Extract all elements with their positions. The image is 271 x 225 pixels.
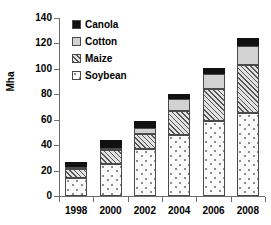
y-axis-tick (54, 69, 59, 70)
bar-segment-canola-1998 (65, 162, 87, 168)
x-axis-tick (128, 197, 129, 202)
y-axis-tick-label: 60 (18, 115, 52, 125)
bar-segment-cotton-2004 (168, 99, 190, 110)
bar-segment-soybean-2006 (203, 121, 225, 196)
legend-label: Maize (85, 54, 112, 64)
chart-legend: CanolaCottonMaizeSoybean (72, 16, 167, 84)
y-axis-tick (54, 18, 59, 19)
legend-label: Soybean (85, 71, 127, 81)
y-axis-title: Mha (5, 76, 16, 92)
legend-swatch-maize-icon (72, 54, 81, 63)
bar-segment-maize-2000 (100, 150, 122, 164)
x-axis-tick (162, 197, 163, 202)
legend-swatch-cotton-icon (72, 37, 81, 46)
x-axis-tick (265, 197, 266, 202)
bar-segment-canola-2004 (168, 94, 190, 99)
legend-item-maize: Maize (72, 50, 167, 67)
x-axis-tick (93, 197, 94, 202)
bar-2004 (168, 18, 190, 196)
bar-segment-soybean-2000 (100, 164, 122, 196)
bar-segment-cotton-2006 (203, 74, 225, 89)
y-axis-tick-label: 80 (18, 89, 52, 99)
y-axis-tick-label: 40 (18, 140, 52, 150)
bar-segment-canola-2008 (237, 38, 259, 46)
x-axis-tick (196, 197, 197, 202)
bar-segment-cotton-2002 (134, 128, 156, 134)
y-axis-tick-label: 100 (18, 64, 52, 74)
y-axis-tick (54, 145, 59, 146)
x-axis-tick-label: 2008 (227, 206, 269, 216)
legend-item-cotton: Cotton (72, 33, 167, 50)
bar-segment-cotton-2008 (237, 46, 259, 65)
legend-swatch-canola-icon (72, 20, 81, 29)
y-axis-tick-label: 120 (18, 38, 52, 48)
legend-item-canola: Canola (72, 16, 167, 33)
x-axis-tick (231, 197, 232, 202)
y-axis-tick-label: 20 (18, 166, 52, 176)
bar-segment-canola-2000 (100, 140, 122, 148)
bar-segment-soybean-2008 (237, 113, 259, 196)
bar-segment-maize-2004 (168, 111, 190, 135)
y-axis-tick (54, 171, 59, 172)
bar-segment-maize-1998 (65, 169, 87, 178)
legend-label: Cotton (85, 37, 117, 47)
bar-segment-maize-2006 (203, 89, 225, 121)
bar-segment-canola-2002 (134, 121, 156, 128)
bar-segment-maize-2008 (237, 65, 259, 113)
bar-segment-soybean-2002 (134, 149, 156, 196)
bar-segment-canola-2006 (203, 68, 225, 74)
legend-item-soybean: Soybean (72, 67, 167, 84)
bar-segment-cotton-2000 (100, 148, 122, 151)
bar-2008 (237, 18, 259, 196)
y-axis-tick-label: 140 (18, 13, 52, 23)
bar-segment-cotton-1998 (65, 167, 87, 169)
legend-label: Canola (85, 20, 118, 30)
bar-2006 (203, 18, 225, 196)
bar-segment-maize-2002 (134, 134, 156, 149)
bar-segment-soybean-2004 (168, 135, 190, 196)
y-axis-tick (54, 120, 59, 121)
x-axis-tick (59, 197, 60, 202)
y-axis-tick (54, 94, 59, 95)
stacked-bar-chart: Mha 020406080100120140 19982000200220042… (0, 0, 271, 225)
bar-segment-soybean-1998 (65, 178, 87, 196)
y-axis-tick-label: 0 (18, 191, 52, 201)
y-axis-tick (54, 43, 59, 44)
legend-swatch-soybean-icon (72, 71, 81, 80)
